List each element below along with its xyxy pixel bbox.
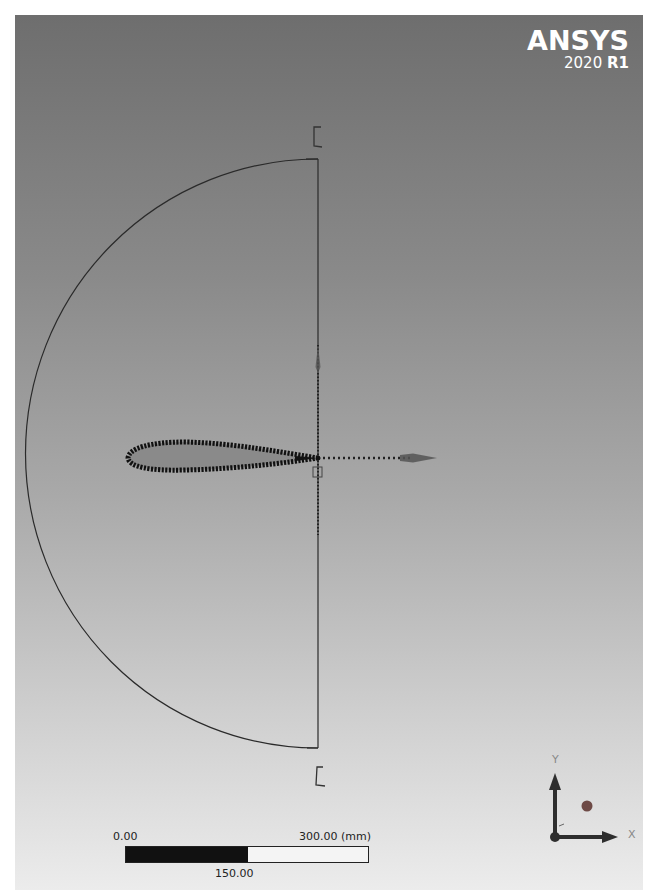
triad-y-label: Y <box>552 753 559 766</box>
triad-x-label: X <box>628 828 636 841</box>
y-axis-arrow-icon <box>316 345 321 373</box>
x-axis-arrow-icon <box>400 454 437 463</box>
airfoil-body[interactable] <box>128 442 318 470</box>
top-bracket-marker <box>314 127 322 147</box>
axis-triad[interactable]: Y X <box>540 740 643 850</box>
triad-x-arrow-icon <box>602 831 618 843</box>
graphics-viewport[interactable]: ANSYS 2020 R1 0.00 300.00 (mm) <box>15 15 643 890</box>
triad-rotation-point-icon[interactable] <box>582 801 593 812</box>
bottom-bracket-marker <box>316 767 325 786</box>
triad-y-arrow-icon <box>549 773 561 790</box>
